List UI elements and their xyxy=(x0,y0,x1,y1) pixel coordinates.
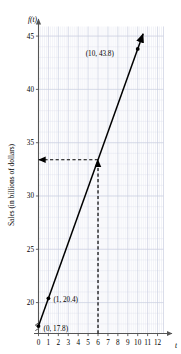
y-tick-label: 40 xyxy=(27,86,35,94)
y-tick-label: 20 xyxy=(27,299,35,307)
y-tick-label: 25 xyxy=(27,246,35,254)
y-axis-title: Sales (in billions of dollars) xyxy=(7,143,16,226)
data-point-marker xyxy=(47,296,51,300)
data-point-label: (1, 20.4) xyxy=(53,296,78,304)
sales-line-chart: 202530354045 0123456789101112 (0, 17.8)(… xyxy=(0,0,181,354)
data-point-label: (0, 17.8) xyxy=(44,325,69,333)
x-tick-label: 7 xyxy=(106,339,110,347)
x-tick-label: 10 xyxy=(134,339,142,347)
data-point-marker xyxy=(37,324,41,328)
x-tick-label: 11 xyxy=(144,339,151,347)
x-tick-label: 9 xyxy=(126,339,130,347)
x-tick-label: 0 xyxy=(37,339,41,347)
chart-container: 202530354045 0123456789101112 (0, 17.8)(… xyxy=(0,0,181,354)
y-tick-label: 35 xyxy=(27,139,35,147)
x-tick-label: 8 xyxy=(116,339,120,347)
y-tick-label: 30 xyxy=(27,192,35,200)
y-axis-name-label: f(t) xyxy=(28,15,38,24)
x-tick-label: 3 xyxy=(66,339,70,347)
y-tick-label: 45 xyxy=(27,33,35,41)
data-point-marker xyxy=(136,47,140,51)
x-tick-label: 1 xyxy=(47,339,51,347)
x-tick-label: 2 xyxy=(57,339,61,347)
x-tick-label: 12 xyxy=(154,339,162,347)
x-tick-label: 6 xyxy=(96,339,100,347)
data-point-label: (10, 43.8) xyxy=(86,50,115,58)
x-tick-label: 4 xyxy=(76,339,80,347)
x-tick-label: 5 xyxy=(86,339,90,347)
